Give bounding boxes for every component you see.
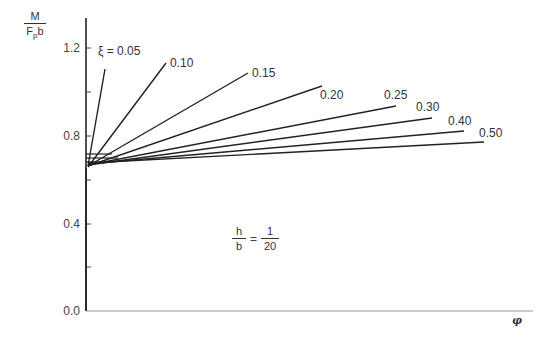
- series-label-0.10: 0.10: [170, 56, 193, 70]
- series-label-0.30: 0.30: [416, 100, 439, 114]
- x-axis-label: φ: [512, 314, 522, 327]
- series-label-0.25: 0.25: [384, 88, 407, 102]
- series-label-0.05: ξ = 0.05: [98, 44, 140, 58]
- series-line-0.40: [88, 131, 464, 164]
- series-label-0.50: 0.50: [479, 126, 502, 140]
- series-line-0.30: [88, 118, 432, 165]
- annotation-h-over-b: hb = 120: [232, 225, 279, 252]
- series-label-0.40: 0.40: [448, 114, 471, 128]
- plot-area: [0, 0, 559, 341]
- series-label-0.15: 0.15: [252, 66, 275, 80]
- series-line-0.10: [88, 63, 166, 167]
- series-label-0.20: 0.20: [320, 88, 343, 102]
- series-line-0.25: [88, 106, 396, 165]
- series-line-0.05: [88, 69, 105, 166]
